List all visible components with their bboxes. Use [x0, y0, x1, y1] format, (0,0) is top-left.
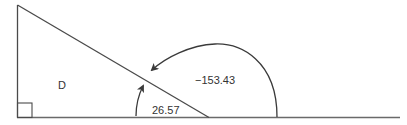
large-angle-label: −153.43 — [195, 74, 235, 86]
right-angle-marker — [18, 103, 33, 118]
small-angle-arrow-icon — [136, 86, 143, 116]
small-angle-label: 26.57 — [152, 104, 180, 116]
region-label: D — [58, 79, 66, 91]
hypotenuse — [18, 5, 210, 118]
angle-diagram: D 26.57 −153.43 — [0, 0, 407, 125]
